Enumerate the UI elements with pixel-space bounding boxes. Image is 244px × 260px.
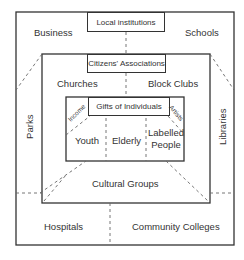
- outer-box: [16, 12, 234, 245]
- label-hospitals: Hospitals: [44, 222, 83, 232]
- local-institutions-title: Local institutions: [87, 12, 165, 32]
- label-schools: Schools: [185, 28, 219, 38]
- label-libraries: Libraries: [218, 104, 228, 150]
- label-cultural-groups: Cultural Groups: [92, 179, 159, 189]
- cell-youth: Youth: [68, 135, 106, 147]
- citizens-associations-title: Citizens' Associations: [87, 54, 166, 73]
- label-parks: Parks: [25, 107, 35, 147]
- label-block-clubs: Block Clubs: [148, 79, 198, 89]
- cell-elderly: Elderly: [107, 135, 146, 147]
- cell-labelled-people: Labelled People: [146, 127, 186, 151]
- gifts-of-individuals-title: Gifts of Individuals: [88, 97, 170, 116]
- label-churches: Churches: [57, 79, 98, 89]
- label-community-colleges: Community Colleges: [132, 222, 220, 232]
- label-business: Business: [34, 28, 73, 38]
